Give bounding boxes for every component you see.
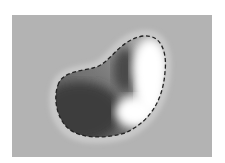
diagram-canvas [0, 0, 225, 163]
